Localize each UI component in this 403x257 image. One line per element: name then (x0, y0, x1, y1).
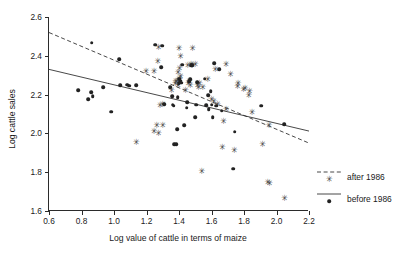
data-point: ✳ (155, 130, 162, 137)
data-point (195, 80, 199, 84)
data-point (170, 94, 174, 98)
y-axis-tick-label: 2.6 (30, 12, 42, 22)
data-point (128, 84, 132, 88)
y-axis-tick (45, 56, 49, 57)
y-axis-tick-label: 1.6 (30, 206, 42, 216)
data-point (207, 107, 211, 111)
data-point (188, 78, 192, 82)
x-axis-tick (277, 211, 278, 215)
data-point (161, 44, 165, 48)
data-point (231, 167, 235, 171)
data-point (182, 123, 186, 127)
legend-item[interactable]: before 1986 (316, 190, 402, 212)
data-point: ✳ (230, 147, 237, 154)
data-point: ✳ (182, 86, 189, 93)
data-point (162, 103, 166, 107)
plot-area: 1.61.82.02.22.42.60.60.81.01.21.41.61.82… (48, 17, 308, 211)
data-point (135, 83, 139, 87)
data-point: ✳ (177, 52, 184, 59)
x-axis-tick (212, 211, 213, 215)
x-axis-tick-label: 1.8 (238, 216, 250, 226)
legend-label: after 1986 (347, 172, 385, 182)
data-point (193, 115, 197, 119)
data-point (213, 61, 217, 65)
data-point (209, 89, 213, 93)
legend: ✳after 1986before 1986 (316, 168, 402, 212)
legend-marker-icon (327, 199, 331, 203)
data-point (259, 104, 263, 108)
data-point (186, 100, 190, 104)
data-point: ✳ (246, 88, 253, 95)
data-point: ✳ (175, 44, 182, 51)
data-point (191, 63, 195, 67)
legend-key-icon: ✳ (316, 168, 342, 188)
data-point: ✳ (266, 180, 273, 187)
x-axis-tick-label: 1.2 (141, 216, 153, 226)
data-point (180, 63, 184, 67)
data-point: ✳ (132, 139, 139, 146)
data-point (160, 65, 164, 69)
y-axis-title: Log cattle sales (7, 44, 17, 194)
data-point: ✳ (281, 195, 288, 202)
data-point (153, 43, 157, 47)
data-point: ✳ (199, 84, 206, 91)
data-point: ✳ (222, 60, 229, 67)
chart-container: Log cattle sales 1.61.82.02.22.42.60.60.… (0, 0, 403, 257)
data-point (118, 83, 122, 87)
x-axis-tick-label: 2.2 (303, 216, 315, 226)
x-axis-tick-label: 1.4 (173, 216, 185, 226)
y-axis-tick-label: 1.8 (30, 167, 42, 177)
data-point (76, 89, 80, 93)
data-point: ✳ (154, 58, 161, 65)
y-axis-tick-label: 2.0 (30, 128, 42, 138)
data-point: ✳ (265, 121, 272, 128)
data-point (91, 94, 95, 98)
data-point (211, 115, 215, 119)
data-point (87, 98, 91, 102)
x-axis-tick (114, 211, 115, 215)
legend-marker-icon: ✳ (325, 175, 332, 184)
data-point (175, 127, 179, 131)
y-axis-tick (45, 17, 49, 18)
x-axis-tick (244, 211, 245, 215)
x-axis-tick-label: 0.6 (43, 216, 55, 226)
data-point (233, 130, 237, 134)
data-point (90, 41, 94, 45)
data-point (203, 77, 207, 81)
data-point (117, 57, 121, 61)
data-point (283, 122, 287, 126)
data-point: ✳ (142, 67, 149, 74)
x-axis-tick-label: 2.0 (271, 216, 283, 226)
data-point: ✳ (259, 141, 266, 148)
data-point (206, 93, 210, 97)
y-axis-tick (45, 133, 49, 134)
x-axis-tick-label: 0.8 (76, 216, 88, 226)
legend-label: before 1986 (347, 194, 392, 204)
data-point (194, 103, 198, 107)
x-axis-tick-label: 1.6 (206, 216, 218, 226)
data-point (109, 110, 113, 114)
y-axis-tick (45, 172, 49, 173)
y-axis-tick-label: 2.4 (30, 51, 42, 61)
data-point (220, 109, 224, 113)
legend-key-icon (316, 190, 342, 210)
data-point (168, 85, 172, 89)
data-point (172, 104, 176, 108)
y-axis-tick (45, 95, 49, 96)
data-point (210, 103, 214, 107)
data-point: ✳ (219, 143, 226, 150)
data-point: ✳ (227, 71, 234, 78)
x-axis-tick (82, 211, 83, 215)
data-point: ✳ (220, 118, 227, 125)
data-point (179, 81, 183, 85)
data-point (174, 142, 178, 146)
data-point (214, 104, 218, 108)
x-axis-tick (147, 211, 148, 215)
y-axis-tick-label: 2.2 (30, 90, 42, 100)
x-axis-tick-label: 1.0 (108, 216, 120, 226)
data-point: ✳ (198, 168, 205, 175)
data-point: ✳ (189, 44, 196, 51)
legend-item[interactable]: ✳after 1986 (316, 168, 402, 190)
data-point (101, 85, 105, 89)
data-point: ✳ (159, 121, 166, 128)
